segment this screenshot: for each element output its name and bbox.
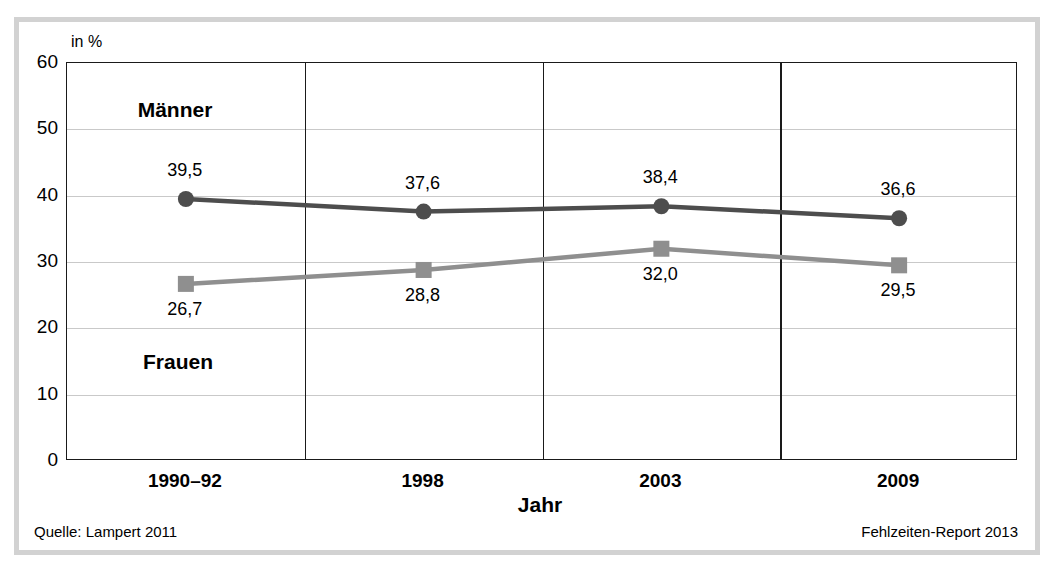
series-lines xyxy=(67,63,1018,461)
series-line-maenner xyxy=(186,199,899,218)
data-point-marker-square xyxy=(416,262,432,278)
x-axis-title: Jahr xyxy=(518,493,562,517)
y-axis-tick-label: 50 xyxy=(0,117,58,139)
series-line-frauen xyxy=(186,249,899,284)
source-note: Quelle: Lampert 2011 xyxy=(34,523,177,540)
y-axis-tick-label: 60 xyxy=(0,51,58,73)
data-point-marker-circle xyxy=(416,204,432,220)
data-point-marker-square xyxy=(178,276,194,292)
data-point-label: 39,5 xyxy=(167,160,202,181)
data-point-label: 32,0 xyxy=(643,264,678,285)
data-point-label: 29,5 xyxy=(881,280,916,301)
series-label-maenner: Männer xyxy=(138,98,213,122)
series-label-frauen: Frauen xyxy=(143,350,213,374)
data-point-label: 38,4 xyxy=(643,167,678,188)
data-point-marker-circle xyxy=(653,198,669,214)
y-axis-tick-label: 10 xyxy=(0,383,58,405)
data-point-label: 37,6 xyxy=(405,173,440,194)
y-axis-tick-label: 40 xyxy=(0,184,58,206)
data-point-marker-square xyxy=(891,257,907,273)
x-axis-tick-label: 2003 xyxy=(639,470,681,492)
data-point-marker-square xyxy=(653,241,669,257)
data-point-marker-circle xyxy=(891,210,907,226)
data-point-marker-circle xyxy=(178,191,194,207)
x-axis-tick-label: 2009 xyxy=(877,470,919,492)
x-axis-tick-label: 1998 xyxy=(401,470,443,492)
y-axis-tick-label: 20 xyxy=(0,316,58,338)
y-axis-tick-label: 30 xyxy=(0,250,58,272)
report-note: Fehlzeiten-Report 2013 xyxy=(861,523,1018,540)
x-axis-tick-label: 1990–92 xyxy=(148,470,222,492)
data-point-label: 36,6 xyxy=(881,179,916,200)
y-axis-unit-label: in % xyxy=(71,33,102,51)
data-point-label: 28,8 xyxy=(405,285,440,306)
data-point-label: 26,7 xyxy=(167,299,202,320)
chart-figure: in % 0102030405060 Männer Frauen 39,537,… xyxy=(0,0,1052,588)
y-axis-tick-label: 0 xyxy=(0,449,58,471)
